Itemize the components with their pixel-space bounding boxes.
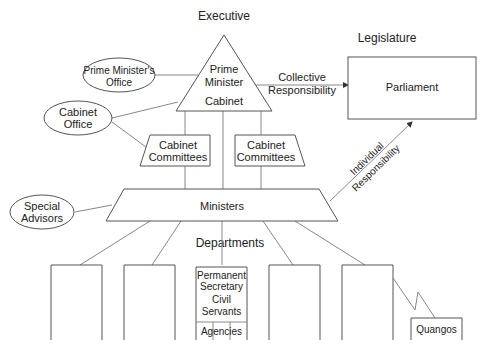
cabinet-office-label-2: Office [64,118,93,130]
department-box-4 [269,265,320,340]
special-advisors-label-2: Advisors [21,212,64,224]
cabinet-committees-right-label-2: Committees [237,151,296,163]
secretary-label: Secretary [200,281,243,292]
department-box-1 [51,265,102,340]
legislature-heading: Legislature [358,31,417,45]
collective-label-1: Collective [278,71,326,83]
pm-office-label-2: Office [106,77,132,88]
special-advisors-label-1: Special [24,200,60,212]
cabinet-committees-left-label-2: Committees [149,151,208,163]
parliament-label: Parliament [386,81,439,93]
civil-label: Civil [212,294,231,305]
agencies-label: Agencies [201,326,242,337]
servants-label: Servants [202,306,241,317]
department-box-5 [342,265,393,340]
cabinet-office-label-1: Cabinet [59,106,97,118]
collective-label-2: Responsibility [268,84,336,96]
executive-heading: Executive [198,9,250,23]
ministers-label: Ministers [200,200,245,212]
pm-office-label-1: Prime Minister's [84,65,155,76]
departments-heading: Departments [196,236,265,250]
cabinet-label: Cabinet [205,95,243,107]
central-department-node: Permanent Secretary Civil Servants Agenc… [196,267,247,340]
department-box-2 [124,265,175,340]
prime-minister-label-2: Minister [205,76,244,88]
quangos-label: Quangos [416,324,457,335]
prime-minister-label-1: Prime [210,63,239,75]
government-structure-diagram: Executive Legislature Departments Collec… [0,0,481,350]
cabinet-committees-right-label-1: Cabinet [247,139,285,151]
cabinet-committees-left-label-1: Cabinet [159,139,197,151]
permanent-label: Permanent [197,270,246,281]
